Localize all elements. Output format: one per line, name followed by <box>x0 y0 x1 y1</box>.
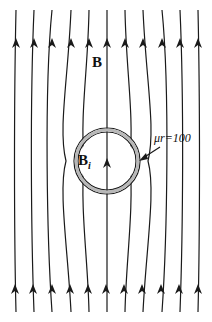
internal-field-subscript: i <box>88 160 91 171</box>
internal-field-symbol: B <box>78 152 88 168</box>
field-lines <box>0 0 212 322</box>
external-field-label: B <box>92 54 102 71</box>
magnetic-shielding-diagram: B Bi μr=100 <box>0 0 212 322</box>
permeability-label: μr=100 <box>154 131 191 146</box>
internal-field-label: Bi <box>78 152 91 171</box>
